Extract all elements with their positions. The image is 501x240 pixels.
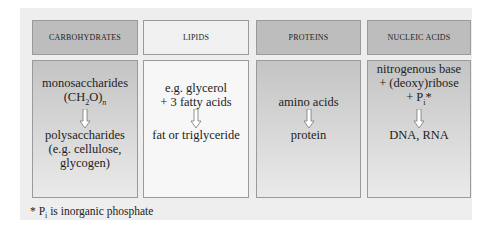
footnote: * Pi is inorganic phosphate: [30, 205, 153, 220]
box-lipids: e.g. glycerol + 3 fatty acids fat or tri…: [143, 60, 249, 198]
header-nucleic-acids: NUCLEIC ACIDS: [367, 20, 471, 55]
header-proteins: PROTEINS: [256, 20, 361, 55]
polymer-line: glycogen): [33, 156, 137, 170]
polymer-text: fat or triglyceride: [144, 128, 248, 142]
monomer-text: amino acids: [257, 95, 360, 109]
header-lipids: LIPIDS: [143, 20, 249, 55]
phosphate-line: + Pi*: [368, 90, 470, 110]
monomer-line: nitrogenous base: [368, 62, 470, 76]
polymer-text: polysaccharides (e.g. cellulose, glycoge…: [33, 128, 137, 170]
down-arrow-icon: [303, 109, 315, 129]
header-carbohydrates: CARBOHYDRATES: [32, 20, 138, 55]
polymer-text: DNA, RNA: [368, 128, 470, 142]
box-nucleic-acids: nitrogenous base + (deoxy)ribose + Pi* D…: [367, 60, 471, 198]
monomer-line: + 3 fatty acids: [144, 95, 248, 109]
box-proteins: amino acids protein: [256, 60, 361, 198]
monomer-text: nitrogenous base + (deoxy)ribose + Pi*: [368, 62, 470, 110]
down-arrow-icon: [190, 109, 202, 129]
polymer-line: (e.g. cellulose,: [33, 142, 137, 156]
monomer-line: amino acids: [257, 95, 360, 109]
down-arrow-icon: [413, 109, 425, 129]
polymer-text: protein: [257, 128, 360, 142]
polymer-line: polysaccharides: [33, 128, 137, 142]
box-carbohydrates: monosaccharides (CH2O)n polysaccharides …: [32, 60, 138, 198]
monomer-line: monosaccharides: [33, 76, 137, 90]
polymer-line: protein: [257, 128, 360, 142]
formula-line: (CH2O)n: [33, 90, 137, 110]
polymer-line: fat or triglyceride: [144, 128, 248, 142]
polymer-line: DNA, RNA: [368, 128, 470, 142]
monomer-line: e.g. glycerol: [144, 81, 248, 95]
down-arrow-icon: [79, 109, 91, 129]
monomer-text: e.g. glycerol + 3 fatty acids: [144, 81, 248, 109]
monomer-line: + (deoxy)ribose: [368, 76, 470, 90]
monomer-text: monosaccharides (CH2O)n: [33, 76, 137, 110]
